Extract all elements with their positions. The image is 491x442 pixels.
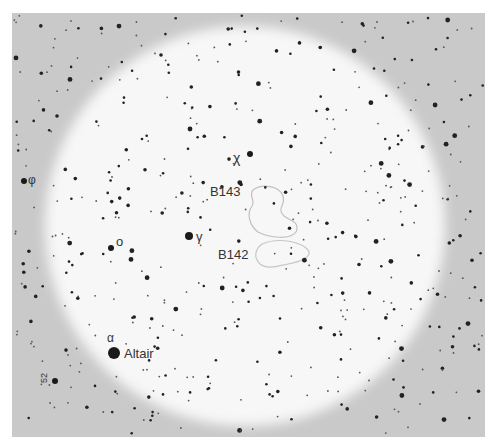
star-dot — [237, 70, 241, 74]
star-dot — [480, 299, 483, 302]
star-dot — [240, 430, 242, 432]
star-dot — [77, 57, 79, 59]
star-dot — [468, 417, 471, 420]
star-dot — [18, 15, 20, 17]
star-dot — [187, 211, 190, 214]
star-dot — [279, 317, 282, 320]
star-dot — [404, 82, 406, 84]
star-dot — [264, 186, 267, 189]
star-dot — [309, 221, 312, 224]
star-dot — [407, 426, 409, 428]
star-dot — [37, 267, 39, 269]
star-dot — [111, 411, 114, 414]
star-dot — [190, 117, 192, 119]
star-dot — [345, 319, 347, 321]
star-dot — [458, 234, 462, 238]
star-dot — [400, 211, 402, 213]
star-dot — [118, 165, 121, 168]
star-52-icon — [52, 378, 58, 384]
chi-label: χ — [233, 150, 241, 166]
star-dot — [447, 198, 449, 200]
star-dot — [345, 407, 349, 411]
star-dot — [200, 244, 202, 246]
star-dot — [110, 200, 114, 204]
star-dot — [443, 46, 445, 48]
star-dot — [32, 120, 35, 123]
star-dot — [316, 302, 319, 305]
star-dot — [474, 286, 477, 289]
star-dot — [383, 300, 385, 302]
star-dot — [173, 329, 175, 331]
star-dot — [16, 330, 18, 332]
star-dot — [340, 403, 343, 406]
star-dot — [18, 144, 20, 146]
star-dot — [452, 239, 455, 242]
star-dot — [312, 209, 314, 211]
star-dot — [126, 204, 130, 208]
star-dot — [42, 108, 46, 112]
star-dot — [277, 416, 279, 418]
star-dot — [184, 102, 187, 105]
star-dot — [313, 276, 315, 278]
star-dot — [268, 393, 271, 396]
star-dot — [361, 258, 363, 260]
star-dot — [151, 415, 154, 418]
star-dot — [354, 71, 356, 73]
star-dot — [388, 357, 390, 359]
star-dot — [411, 59, 414, 62]
star-dot — [53, 185, 55, 187]
star-dot — [102, 253, 105, 256]
star-dot — [203, 135, 207, 139]
star-dot — [379, 161, 384, 166]
star-dot — [38, 100, 40, 102]
star-dot — [70, 386, 72, 388]
star-dot — [203, 285, 206, 288]
star-dot — [56, 200, 58, 202]
star-dot — [288, 227, 292, 231]
star-52-label: 52 — [39, 373, 49, 383]
star-dot — [386, 313, 388, 315]
star-dot — [108, 171, 111, 174]
star-dot — [385, 185, 387, 187]
star-dot — [48, 129, 51, 132]
star-dot — [164, 33, 167, 36]
star-dot — [313, 287, 315, 289]
star-dot — [385, 432, 387, 434]
star-dot — [147, 295, 149, 297]
star-dot — [40, 71, 44, 75]
star-dot — [280, 20, 282, 22]
star-dot — [164, 374, 167, 377]
star-dot — [364, 390, 366, 392]
star-dot — [375, 415, 379, 419]
star-dot — [377, 192, 379, 194]
star-dot — [428, 170, 430, 172]
star-dot — [123, 96, 126, 99]
star-dot — [265, 285, 268, 288]
star-dot — [341, 21, 343, 23]
star-dot — [236, 325, 239, 328]
altair-star-icon — [108, 347, 120, 359]
star-dot — [206, 388, 209, 391]
star-dot — [410, 308, 412, 310]
star-dot — [109, 179, 112, 182]
star-dot — [280, 131, 284, 135]
star-dot — [315, 110, 318, 113]
star-dot — [67, 241, 72, 246]
alpha-label: α — [107, 331, 114, 345]
star-dot — [290, 418, 293, 421]
star-dot — [223, 136, 226, 139]
star-dot — [115, 282, 117, 284]
star-dot — [191, 108, 193, 110]
star-dot — [177, 391, 179, 393]
star-dot — [247, 281, 250, 284]
star-dot — [252, 109, 254, 111]
star-dot — [318, 163, 320, 165]
star-dot — [469, 94, 472, 97]
star-dot — [278, 351, 282, 355]
star-dot — [292, 218, 294, 220]
star-dot — [116, 393, 118, 395]
star-dot — [324, 137, 326, 139]
star-dot — [17, 149, 20, 152]
star-dot — [422, 369, 424, 371]
star-dot — [64, 348, 68, 352]
